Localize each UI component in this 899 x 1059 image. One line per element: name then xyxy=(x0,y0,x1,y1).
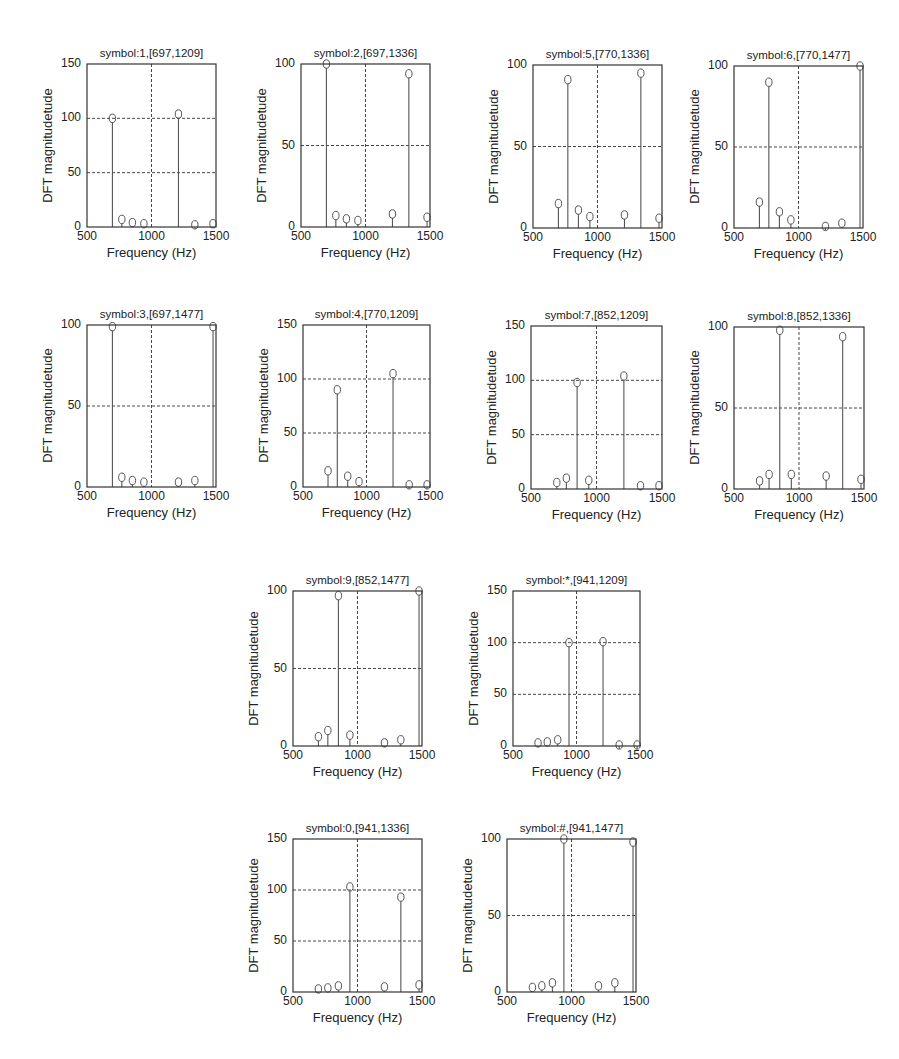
x-tick-label: 1000 xyxy=(138,489,166,503)
y-tick-label: 50 xyxy=(68,398,81,412)
x-axis-label: Frequency (Hz) xyxy=(293,764,422,779)
stem-marker xyxy=(529,983,535,991)
plot-area xyxy=(507,839,636,992)
x-tick-label: 1500 xyxy=(202,229,230,243)
subplot-title: symbol:7,[852,1209] xyxy=(531,309,662,321)
x-axis-label: Frequency (Hz) xyxy=(293,1010,422,1025)
stem-marker xyxy=(333,211,339,219)
stem-marker xyxy=(390,369,396,377)
stem-marker xyxy=(192,476,198,484)
stem-marker xyxy=(315,733,321,741)
x-tick-label: 500 xyxy=(73,229,101,243)
stem-marker xyxy=(347,731,353,739)
x-tick-label: 500 xyxy=(287,229,315,243)
y-tick-label: 150 xyxy=(61,56,81,70)
stem-marker xyxy=(788,470,794,478)
subplot-p8: symbol:8,[852,1336]05010050010001500Freq… xyxy=(734,327,864,489)
x-tick-label: 1000 xyxy=(583,491,611,505)
subplot-p6: symbol:6,[770,1477]05010050010001500Freq… xyxy=(734,66,863,228)
subplot-title: symbol:8,[852,1336] xyxy=(734,310,864,322)
x-tick-label: 500 xyxy=(519,230,547,244)
stem-marker xyxy=(756,477,762,485)
y-tick-label: 100 xyxy=(708,58,728,72)
x-axis-label: Frequency (Hz) xyxy=(533,246,662,261)
y-tick-label: 50 xyxy=(514,139,527,153)
stem-marker xyxy=(424,213,430,221)
plot-area xyxy=(531,326,662,489)
x-tick-label: 500 xyxy=(279,994,307,1008)
stem-marker xyxy=(175,478,181,486)
stem-marker xyxy=(788,216,794,224)
y-axis-label: DFT magnitudetude xyxy=(466,591,481,746)
plot-area xyxy=(87,325,216,487)
stem-marker xyxy=(109,322,115,330)
y-axis-label: DFT magnitudetude xyxy=(687,327,702,489)
y-axis-label: DFT magnitudetude xyxy=(484,326,499,489)
y-axis-label: DFT magnitudetude xyxy=(254,64,269,227)
stem-marker xyxy=(210,322,216,330)
stem-marker xyxy=(544,738,550,746)
stem-marker xyxy=(839,333,845,341)
subplot-title: symbol:2,[697,1336] xyxy=(301,47,430,59)
x-tick-label: 1500 xyxy=(408,994,436,1008)
y-tick-label: 100 xyxy=(505,372,525,386)
x-tick-label: 1000 xyxy=(138,229,166,243)
subplot-title: symbol:4,[770,1209] xyxy=(303,308,430,320)
subplot-title: symbol:1,[697,1209] xyxy=(87,47,216,59)
stem-marker xyxy=(563,474,569,482)
x-tick-label: 1500 xyxy=(626,748,654,762)
x-axis-label: Frequency (Hz) xyxy=(531,507,662,522)
y-tick-label: 50 xyxy=(494,686,507,700)
y-tick-label: 150 xyxy=(505,318,525,332)
stem-marker xyxy=(416,981,422,989)
x-tick-label: 1500 xyxy=(648,491,676,505)
x-axis-label: Frequency (Hz) xyxy=(301,245,430,260)
stem-marker xyxy=(574,378,580,386)
x-tick-label: 500 xyxy=(720,491,748,505)
x-tick-label: 1500 xyxy=(408,748,436,762)
plot-area xyxy=(734,327,864,489)
stem-marker xyxy=(638,69,644,77)
stem-marker xyxy=(325,467,331,475)
y-axis-label: DFT magnitudetude xyxy=(40,325,55,487)
subplot-p4: symbol:4,[770,1209]05010015050010001500F… xyxy=(303,325,430,487)
stem-marker xyxy=(621,211,627,219)
stem-marker xyxy=(389,210,395,218)
plot-area xyxy=(293,839,422,992)
x-tick-label: 1500 xyxy=(622,994,650,1008)
y-tick-label: 100 xyxy=(61,110,81,124)
subplot-title: symbol:6,[770,1477] xyxy=(734,49,863,61)
x-axis-label: Frequency (Hz) xyxy=(303,505,430,520)
plot-area xyxy=(87,64,216,227)
x-tick-label: 1000 xyxy=(344,994,372,1008)
stem-marker xyxy=(381,983,387,991)
stem-marker xyxy=(129,476,135,484)
y-tick-label: 50 xyxy=(282,138,295,152)
y-tick-label: 150 xyxy=(267,831,287,845)
stem-marker xyxy=(600,637,606,645)
y-tick-label: 100 xyxy=(275,56,295,70)
stem-marker xyxy=(141,478,147,486)
stem-marker xyxy=(119,215,125,223)
stem-marker xyxy=(398,736,404,744)
y-tick-label: 50 xyxy=(274,661,287,675)
stem-marker xyxy=(406,70,412,78)
plot-area xyxy=(533,65,662,228)
stem-marker xyxy=(335,591,341,599)
stem-marker xyxy=(565,75,571,83)
stem-marker xyxy=(756,198,762,206)
stem-marker xyxy=(555,736,561,744)
x-tick-label: 1000 xyxy=(785,491,813,505)
x-tick-label: 1000 xyxy=(353,489,381,503)
x-tick-label: 500 xyxy=(720,230,748,244)
plot-area xyxy=(513,591,640,746)
subplot-title: symbol:*,[941,1209] xyxy=(513,574,640,586)
y-tick-label: 100 xyxy=(267,583,287,597)
y-tick-label: 100 xyxy=(61,317,81,331)
stem-marker xyxy=(587,212,593,220)
x-axis-label: Frequency (Hz) xyxy=(507,1010,636,1025)
subplot-p7: symbol:7,[852,1209]05010015050010001500F… xyxy=(531,326,662,489)
subplot-p2: symbol:2,[697,1336]05010050010001500Freq… xyxy=(301,64,430,227)
x-tick-label: 1000 xyxy=(352,229,380,243)
x-tick-label: 500 xyxy=(499,748,527,762)
